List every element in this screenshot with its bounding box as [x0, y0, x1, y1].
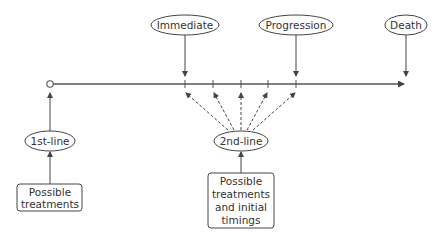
first-line-box-line-1: Possible — [29, 186, 71, 198]
timeline-axis — [47, 80, 404, 88]
event-death-label: Death — [390, 19, 422, 31]
first-line-box-line-2: treatments — [21, 198, 79, 210]
timeline-start-circle — [47, 81, 53, 87]
second-line-box-line-3: and initial — [215, 201, 267, 213]
event-immediate: Immediate — [151, 15, 219, 76]
first-line-label: 1st-line — [30, 135, 69, 147]
timing-dashed-arrows — [186, 93, 295, 130]
treatment-timeline-diagram: Immediate Progression Death 1st-line Pos… — [0, 0, 446, 233]
first-line-group: 1st-line Possible treatments — [17, 93, 82, 211]
second-line-label: 2nd-line — [220, 135, 263, 147]
second-line-group: 2nd-line Possible treatments and initial… — [186, 93, 295, 228]
event-immediate-label: Immediate — [157, 19, 214, 31]
event-progression-label: Progression — [266, 19, 327, 31]
event-death: Death — [385, 15, 427, 76]
second-line-box-line-4: timings — [222, 214, 261, 226]
second-line-box-line-1: Possible — [220, 175, 262, 187]
second-line-box-line-2: treatments — [212, 188, 270, 200]
event-progression: Progression — [259, 15, 333, 76]
